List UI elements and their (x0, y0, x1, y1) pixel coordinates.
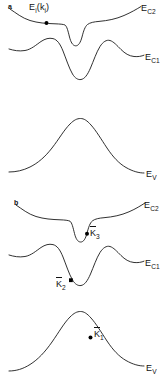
panel-a-letter: a (8, 3, 12, 10)
panel-a-ev-sub: V (152, 174, 156, 181)
panel-b-ev-sub: V (152, 368, 156, 375)
panel-a-ec1-sub: C1 (151, 57, 159, 64)
figure-canvas (0, 0, 167, 390)
initial-state-paren-close: ) (46, 2, 49, 12)
panel-b-k3-label: K3 (90, 229, 100, 240)
panel-a-ec2-label: EC2 (141, 4, 156, 15)
k1-symbol-wrap: K (94, 330, 100, 339)
k1-symbol: K (94, 329, 100, 339)
panel-a-ev-label: EV (146, 170, 157, 181)
panel-a-initial-state-dot (45, 21, 49, 25)
panel-b-k1-label: K1 (94, 330, 104, 341)
k3-symbol: K (90, 228, 96, 238)
panel-b-k1-dot (89, 336, 93, 340)
panel-b-ev-label: EV (146, 364, 157, 375)
k1-vector-bar-icon (94, 327, 101, 328)
k1-sub: 1 (100, 334, 104, 341)
panel-b-k3-dot (85, 232, 89, 236)
panel-a-initial-state-label: Ei(ki) (29, 3, 49, 14)
panel-b-ec1-label: EC1 (145, 259, 160, 270)
k3-sub: 3 (96, 233, 100, 240)
panel-b-ec1-sub: C1 (151, 263, 159, 270)
panel-b-k2-dot (69, 278, 73, 282)
panel-a-ec1-label: EC1 (145, 53, 160, 64)
panel-a-ec2-sub: C2 (147, 8, 155, 15)
k2-symbol-wrap: K (56, 280, 62, 289)
k2-vector-bar-icon (56, 277, 63, 278)
k3-symbol-wrap: K (90, 229, 96, 238)
panel-b-curves (9, 203, 145, 371)
panel-b-ec2-sub: C2 (150, 205, 158, 212)
panel-b-valence-band-curve (9, 312, 144, 372)
panel-a-lower-conduction-band-curve (9, 38, 144, 79)
panel-b-lower-conduction-band-curve (9, 244, 144, 285)
panel-b-letter: b (14, 199, 18, 206)
panel-a-curves (9, 7, 144, 174)
band-structure-figure: a Ei(ki) EC2 EC1 EV b EC2 EC1 EV K3 K2 K… (0, 0, 167, 390)
panel-b-k2-label: K2 (56, 280, 66, 291)
panel-b-upper-conduction-band-curve (16, 203, 145, 242)
k3-vector-bar-icon (90, 226, 97, 227)
panel-a-valence-band-curve (9, 119, 144, 174)
k2-symbol: K (56, 279, 62, 289)
panel-b-ec2-label: EC2 (144, 201, 159, 212)
k2-sub: 2 (62, 284, 66, 291)
